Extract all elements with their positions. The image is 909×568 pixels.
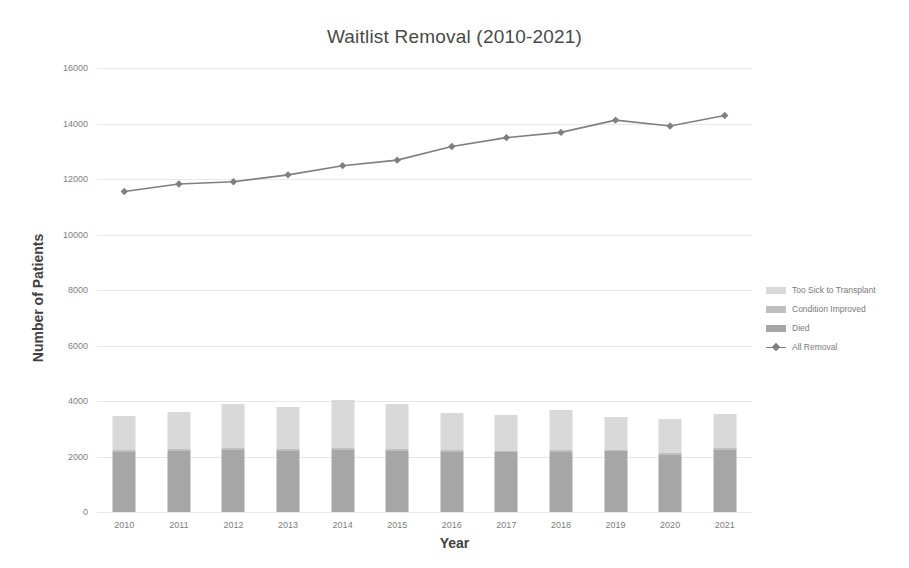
gridline — [97, 290, 752, 291]
gridline — [97, 235, 752, 236]
bar-segment[interactable] — [222, 404, 245, 448]
y-axis-tick-label: 16000 — [63, 63, 88, 73]
stacked-bar[interactable] — [713, 68, 736, 512]
legend-item-label: Too Sick to Transplant — [792, 286, 876, 295]
bar-segment[interactable] — [331, 448, 354, 450]
waitlist-removal-chart: Waitlist Removal (2010-2021) Number of P… — [0, 0, 909, 568]
y-axis-tick-label: 12000 — [63, 174, 88, 184]
bar-segment[interactable] — [386, 451, 409, 512]
x-axis-tick-label: 2020 — [660, 520, 680, 530]
bar-segment[interactable] — [167, 451, 190, 512]
x-axis-tick-label: 2017 — [496, 520, 516, 530]
legend-item-label: Died — [792, 324, 809, 333]
bar-segment[interactable] — [495, 452, 518, 512]
bar-segment[interactable] — [713, 448, 736, 450]
x-axis-tick-label: 2014 — [333, 520, 353, 530]
stacked-bar[interactable] — [222, 68, 245, 512]
x-axis-tick-label: 2013 — [278, 520, 298, 530]
stacked-bar[interactable] — [549, 68, 572, 512]
gridline — [97, 401, 752, 402]
bar-segment[interactable] — [277, 407, 300, 449]
bar-segment[interactable] — [386, 449, 409, 451]
x-axis-tick-label: 2012 — [223, 520, 243, 530]
legend-item[interactable]: Died — [766, 319, 906, 337]
bar-segment[interactable] — [113, 450, 136, 452]
bar-segment[interactable] — [604, 417, 627, 449]
x-axis-tick-label: 2015 — [387, 520, 407, 530]
bar-segment[interactable] — [659, 419, 682, 453]
x-axis-tick-label: 2016 — [442, 520, 462, 530]
gridline — [97, 68, 752, 69]
legend-item[interactable]: Condition Improved — [766, 300, 906, 318]
bar-segment[interactable] — [659, 453, 682, 455]
chart-title: Waitlist Removal (2010-2021) — [0, 26, 909, 48]
bar-segment[interactable] — [167, 412, 190, 449]
bar-segment[interactable] — [549, 452, 572, 512]
stacked-bar[interactable] — [113, 68, 136, 512]
x-axis-title: Year — [0, 535, 909, 551]
stacked-bar[interactable] — [659, 68, 682, 512]
gridline — [97, 179, 752, 180]
bar-segment[interactable] — [440, 452, 463, 512]
y-axis-tick-label: 0 — [83, 507, 88, 517]
legend-item-label: All Removal — [792, 343, 837, 352]
bar-segment[interactable] — [604, 450, 627, 452]
legend-item-label: Condition Improved — [792, 305, 866, 314]
bar-segment[interactable] — [167, 449, 190, 451]
plot-area: 0200040006000800010000120001400016000 20… — [97, 68, 752, 512]
y-axis-tick-label: 10000 — [63, 230, 88, 240]
bar-segment[interactable] — [549, 410, 572, 450]
x-axis-tick-label: 2011 — [169, 520, 188, 530]
bar-segment[interactable] — [222, 450, 245, 512]
bar-segment[interactable] — [277, 451, 300, 512]
line-path — [124, 115, 724, 191]
stacked-bar[interactable] — [604, 68, 627, 512]
y-axis-title: Number of Patients — [30, 198, 46, 398]
stacked-bar[interactable] — [495, 68, 518, 512]
bar-segment[interactable] — [440, 450, 463, 452]
gridline — [97, 457, 752, 458]
bar-segment[interactable] — [495, 415, 518, 451]
legend-swatch-icon — [766, 287, 786, 294]
bar-segment[interactable] — [495, 451, 518, 453]
legend-swatch-icon — [766, 325, 786, 332]
legend-line-marker-icon — [766, 343, 786, 352]
bar-segment[interactable] — [277, 449, 300, 451]
y-axis-tick-label: 14000 — [63, 119, 88, 129]
stacked-bar[interactable] — [277, 68, 300, 512]
x-axis-tick-label: 2021 — [715, 520, 735, 530]
bar-segment[interactable] — [113, 416, 136, 450]
bar-segment[interactable] — [113, 452, 136, 512]
gridline — [97, 124, 752, 125]
legend-item[interactable]: Too Sick to Transplant — [766, 281, 906, 299]
bar-segment[interactable] — [659, 455, 682, 512]
stacked-bar[interactable] — [386, 68, 409, 512]
bar-segment[interactable] — [713, 450, 736, 512]
x-axis-tick-label: 2018 — [551, 520, 571, 530]
bar-segment[interactable] — [440, 413, 463, 450]
y-axis-tick-label: 4000 — [68, 396, 88, 406]
stacked-bar[interactable] — [331, 68, 354, 512]
gridline — [97, 346, 752, 347]
bar-segment[interactable] — [713, 414, 736, 448]
bar-segment[interactable] — [549, 450, 572, 452]
y-axis-tick-label: 6000 — [68, 341, 88, 351]
legend-item[interactable]: All Removal — [766, 338, 906, 356]
y-axis-tick-label: 2000 — [68, 452, 88, 462]
legend-swatch-icon — [766, 306, 786, 313]
chart-legend: Too Sick to TransplantCondition Improved… — [766, 281, 906, 357]
bar-segment[interactable] — [604, 451, 627, 512]
gridline — [97, 512, 752, 513]
bar-segment[interactable] — [331, 400, 354, 448]
x-axis-tick-label: 2010 — [114, 520, 134, 530]
bar-segment[interactable] — [331, 450, 354, 512]
bar-segment[interactable] — [222, 448, 245, 450]
y-axis-tick-label: 8000 — [68, 285, 88, 295]
stacked-bar[interactable] — [440, 68, 463, 512]
stacked-bar[interactable] — [167, 68, 190, 512]
bar-segment[interactable] — [386, 404, 409, 449]
x-axis-tick-label: 2019 — [606, 520, 626, 530]
